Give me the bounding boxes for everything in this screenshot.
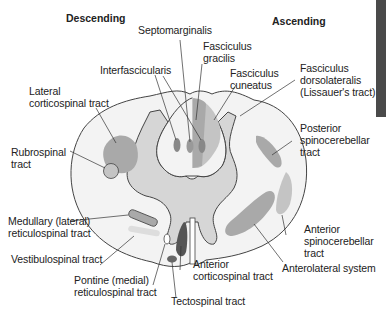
rubrospinal-tract-area xyxy=(104,164,119,179)
pontine-reticulospinal-tract-area xyxy=(164,234,170,244)
label-anterolateral-system: Anterolateral system xyxy=(282,262,376,274)
label-fasciculus-dorsolateralis: Fasciculus dorsolateralis (Lissauer's tr… xyxy=(300,62,375,98)
label-anterior-corticospinal-tract: Anterior corticospinal tract xyxy=(193,258,273,282)
label-posterior-spinocerebellar-tract: Posterior spinocerebellar tract xyxy=(300,122,370,158)
label-anterior-spinocerebellar-tract: Anterior spinocerebellar tract xyxy=(304,223,374,259)
interfascicularis-tract-area xyxy=(174,138,181,152)
label-lateral-corticospinal-tract: Lateral corticospinal tract xyxy=(29,85,109,109)
label-medullary-reticulospinal-tract: Medullary (lateral) reticulospinal tract xyxy=(8,215,91,239)
label-fasciculus-cuneatus: Fasciculus cuneatus xyxy=(230,67,279,91)
label-vestibulospinal-tract: Vestibulospinal tract xyxy=(11,253,102,265)
descending-header: Descending xyxy=(66,12,126,24)
tectospinal-tract-area xyxy=(167,256,177,263)
ascending-header: Ascending xyxy=(272,15,326,27)
septomarginalis-tract-area-2 xyxy=(199,139,206,153)
label-tectospinal-tract: Tectospinal tract xyxy=(171,295,245,307)
label-rubrospinal-tract: Rubrospinal tract xyxy=(11,146,66,170)
label-interfascicularis: Interfascicularis xyxy=(100,64,171,76)
label-septomarginalis: Septomarginalis xyxy=(138,24,212,36)
label-pontine-reticulospinal-tract: Pontine (medial) reticulospinal tract xyxy=(74,274,157,298)
label-fasciculus-gracilis: Fasciculus gracilis xyxy=(203,40,252,64)
